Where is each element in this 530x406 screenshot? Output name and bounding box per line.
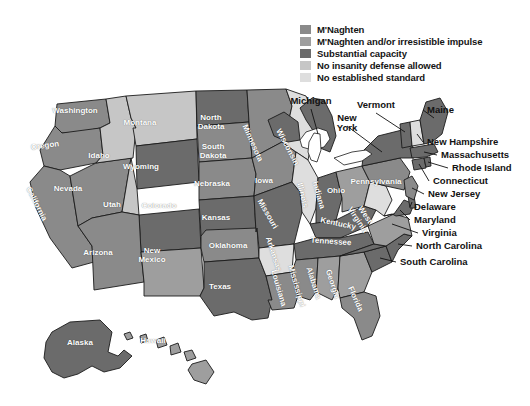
state-nebraska — [199, 158, 256, 200]
state-arkansas — [259, 244, 294, 276]
legend-item-label: No established standard — [317, 73, 425, 83]
state-florida — [340, 292, 380, 340]
legend-item: M'Naghten and/or irresistible impulse — [300, 36, 482, 47]
callout-label: Rhode Island — [452, 163, 528, 173]
legend-item-label: Substantial capacity — [317, 49, 407, 59]
legend-item-label: M'Naghten and/or irresistible impulse — [317, 37, 482, 47]
legend-swatch — [300, 73, 311, 82]
legend-swatch — [300, 61, 311, 70]
callout-label: North Carolina — [416, 241, 502, 251]
state-colorado — [139, 209, 201, 252]
state-montana — [126, 91, 197, 146]
state-north-dakota — [196, 90, 249, 126]
state-new-jersey — [404, 176, 418, 200]
state-oregon — [40, 126, 103, 170]
state-new-mexico — [141, 248, 204, 296]
state-alabama — [316, 256, 340, 300]
callout-label: NewYork — [330, 113, 364, 133]
legend: M'Naghten M'Naghten and/or irresistible … — [300, 24, 482, 83]
callout-label: Connecticut — [433, 176, 505, 186]
legend-swatch — [300, 25, 311, 34]
callout-label: South Carolina — [400, 257, 486, 267]
legend-item: M'Naghten — [300, 24, 482, 35]
legend-swatch — [300, 37, 311, 46]
leader-line — [376, 113, 405, 132]
callout-label: Michigan — [284, 96, 338, 106]
legend-swatch — [300, 49, 311, 58]
callout-label: Vermont — [350, 100, 402, 110]
legend-item-label: M'Naghten — [317, 25, 364, 35]
map-figure: WashingtonOregonCaliforniaNevadaIdahoMon… — [0, 0, 530, 406]
callout-label: Delaware — [414, 202, 472, 212]
callout-label: New Jersey — [428, 189, 496, 199]
state-oklahoma — [201, 228, 259, 262]
legend-item-label: No insanity defense allowed — [317, 61, 442, 71]
callout-label: Maine — [427, 105, 467, 115]
state-texas — [200, 258, 272, 320]
state-south-dakota — [197, 122, 252, 162]
legend-item: No insanity defense allowed — [300, 60, 482, 71]
callout-label: New Hampshire — [427, 137, 515, 147]
callout-label: Virginia — [422, 228, 472, 238]
state-hawaii — [124, 332, 214, 384]
state-alaska — [44, 320, 132, 378]
legend-item: Substantial capacity — [300, 48, 482, 59]
state-wyoming — [136, 139, 199, 189]
callout-label: Massachusetts — [441, 150, 527, 160]
callout-label: Maryland — [414, 215, 472, 225]
legend-item: No established standard — [300, 72, 482, 83]
